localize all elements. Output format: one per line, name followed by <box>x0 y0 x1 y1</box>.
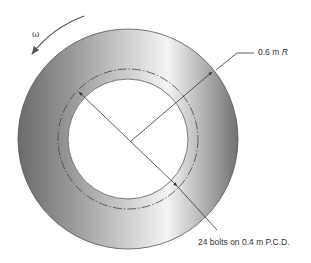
disc-diagram <box>0 0 311 263</box>
outer-radius-value: 0.6 m <box>258 47 279 57</box>
bolt-circle-label: 24 bolts on 0.4 m P.C.D. <box>198 238 290 247</box>
omega-label: ω <box>32 30 39 39</box>
outer-radius-symbol: R <box>282 47 288 57</box>
outer-radius-label: 0.6 m R <box>258 48 288 57</box>
disc-ring <box>18 29 238 251</box>
